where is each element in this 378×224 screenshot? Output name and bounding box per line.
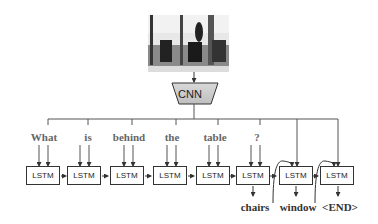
lstm-cell: LSTM	[26, 166, 60, 185]
lstm-cell: LSTM	[153, 166, 187, 185]
lstm-cell: LSTM	[67, 166, 101, 185]
lstm-cell: LSTM	[196, 166, 230, 185]
question-word: table	[203, 131, 226, 143]
answer-word: chairs	[241, 201, 270, 213]
lstm-cell: LSTM	[320, 166, 354, 185]
input-image	[148, 15, 229, 72]
connectors	[0, 0, 378, 224]
lstm-cell: LSTM	[110, 166, 144, 185]
lstm-cell: LSTM	[236, 166, 270, 185]
answer-word: window	[280, 201, 317, 213]
vqa-diagram: CNN What is behind the table ? LSTM LSTM…	[0, 0, 378, 224]
question-word: What	[31, 131, 57, 143]
question-word: behind	[113, 131, 145, 143]
cnn-label: CNN	[176, 88, 204, 100]
answer-word: <END>	[322, 201, 358, 213]
question-word: ?	[254, 131, 260, 143]
question-word: the	[165, 131, 180, 143]
question-word: is	[84, 131, 91, 143]
lstm-cell: LSTM	[279, 166, 313, 185]
